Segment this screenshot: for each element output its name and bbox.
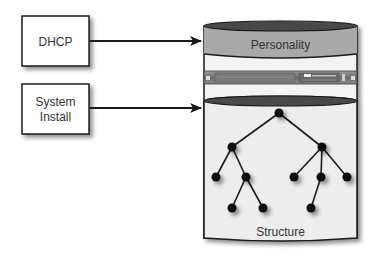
personality-label: Personality [251,38,310,52]
diagram-canvas: DHCP System Install [0,0,383,256]
tree-node [242,173,251,182]
tree-edge [321,147,322,177]
dhcp-box: DHCP [22,16,89,66]
structure-label: Structure [256,225,305,239]
system-install-label-line2: Install [40,110,71,124]
storage-cylinder [204,21,357,241]
tree-node [212,173,221,182]
rack-server-image [204,71,357,84]
dhcp-label: DHCP [38,35,72,49]
tree-node [318,143,327,152]
system-install-label-line1: System [35,95,75,109]
tree-node [259,204,268,213]
cylinder-top-ellipse [204,21,357,31]
system-install-box: System Install [22,84,89,134]
tree-node [275,109,284,118]
tree-node [343,173,352,182]
tree-node [228,204,237,213]
tree-node [228,143,237,152]
tree-node [317,173,326,182]
tree-node [290,173,299,182]
structure-section [204,101,357,241]
tree-node [307,204,316,213]
